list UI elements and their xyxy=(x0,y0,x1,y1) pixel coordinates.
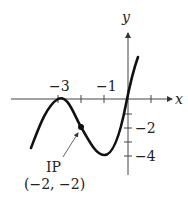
y-axis-label: y xyxy=(121,9,131,25)
x-axis-label: x xyxy=(175,91,183,107)
x-tick-label-neg3: −3 xyxy=(49,78,70,94)
y-tick-label-neg4: −4 xyxy=(135,148,156,164)
ip-pointer-arrow xyxy=(63,133,78,157)
ip-label: IP xyxy=(46,159,61,175)
chart: x y −3 −1 −2 −4 IP (−2, −2) xyxy=(0,0,188,213)
ip-coordinates: (−2, −2) xyxy=(24,176,85,192)
inflection-point-marker xyxy=(78,124,84,130)
y-tick-label-neg2: −2 xyxy=(135,120,156,136)
x-tick-label-neg1: −1 xyxy=(96,78,117,94)
function-curve xyxy=(31,57,138,155)
